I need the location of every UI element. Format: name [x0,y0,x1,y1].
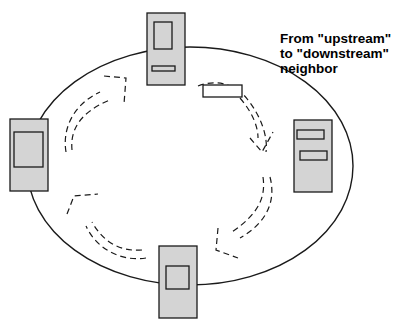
caption-line-3: neighbor [280,61,394,76]
arrow-bottom-to-left [67,194,146,259]
station-screen [166,266,189,289]
station-bottom [159,246,197,318]
station-screen [14,132,43,167]
station-left [10,119,48,191]
caption-line-2: to "downstream" [280,46,394,61]
station-screen [154,22,172,49]
caption: From "upstream" to "downstream" neighbor [280,31,394,76]
caption-line-1: From "upstream" [280,31,394,46]
station-right [294,120,332,192]
station-slot [300,151,327,160]
station-top [147,13,185,85]
station-slot [297,130,324,139]
station-slot [152,66,175,71]
token-frame-icon [203,85,242,97]
arrow-right-to-bottom [216,177,272,258]
arrow-left-to-top [65,76,126,152]
